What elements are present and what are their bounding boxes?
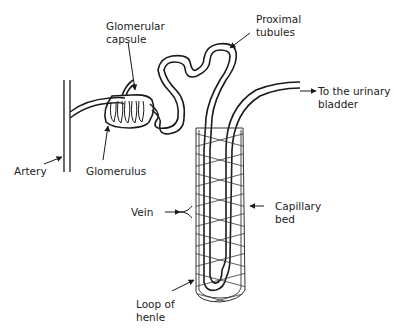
label-vein: Vein [131,206,153,219]
nephron-diagram [0,0,394,332]
glomerulus [110,101,143,123]
proximal-tubules [150,44,236,150]
label-capillary-bed: Capillary bed [275,200,321,226]
label-glomerular-capsule: Glomerular capsule [106,20,165,46]
label-loop-of-henle: Loop of henle [136,298,175,324]
pointer-arrows [44,33,316,291]
label-glomerulus: Glomerulus [86,165,146,178]
label-artery: Artery [14,165,47,178]
label-to-urinary-bladder: To the urinary bladder [318,85,390,111]
loop-of-henle [204,82,300,290]
label-proximal-tubules: Proximal tubules [256,13,301,39]
